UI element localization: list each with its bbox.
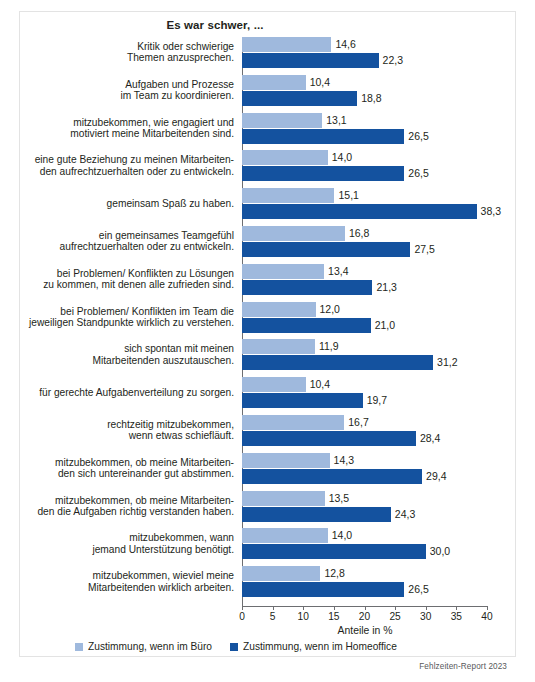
bar-value-label: 14,3 (334, 453, 354, 468)
bar-value-label: 12,0 (320, 302, 340, 317)
category-label: mitzubekommen, ob meine Mitarbeiten- den… (4, 457, 234, 480)
category-label: Aufgaben und Prozesse im Team zu koordin… (4, 79, 234, 102)
x-axis-label: Anteile in % (242, 625, 488, 636)
bar-group: 14,030,0 (242, 528, 487, 559)
bar-value-label: 16,7 (348, 415, 368, 430)
bar-homeoffice[interactable] (242, 355, 433, 370)
legend-swatch-icon-buero (75, 643, 83, 651)
bar-value-label: 14,6 (335, 37, 355, 52)
category-label: mitzubekommen, wann jemand Unterstützung… (4, 532, 234, 555)
bar-homeoffice[interactable] (242, 242, 410, 257)
bar-group: 10,419,7 (242, 377, 487, 408)
bar-buero[interactable] (242, 453, 330, 468)
category-label: mitzubekommen, wie engagiert und motivie… (4, 117, 234, 140)
bar-group: 14,026,5 (242, 150, 487, 181)
bar-buero[interactable] (242, 226, 345, 241)
category-label: mitzubekommen, wieviel meine Mitarbeiten… (4, 570, 234, 593)
bar-homeoffice[interactable] (242, 431, 416, 446)
bar-value-label: 11,9 (319, 339, 339, 354)
bar-homeoffice[interactable] (242, 204, 477, 219)
bar-group: 16,728,4 (242, 415, 487, 446)
bar-group: 14,622,3 (242, 37, 487, 68)
x-tick (242, 606, 243, 610)
bar-homeoffice[interactable] (242, 507, 391, 522)
bar-group: 16,827,5 (242, 226, 487, 257)
bar-value-label: 30,0 (430, 544, 450, 559)
x-tick-label: 5 (270, 611, 276, 622)
bar-group: 13,421,3 (242, 264, 487, 295)
bar-buero[interactable] (242, 150, 328, 165)
bar-value-label: 26,5 (408, 129, 428, 144)
bar-value-label: 14,0 (332, 150, 352, 165)
category-label: gemeinsam Spaß zu haben. (4, 198, 234, 210)
legend-item-homeoffice[interactable]: Zustimmung, wenn im Homeoffice (230, 641, 397, 652)
bar-buero[interactable] (242, 113, 322, 128)
bar-homeoffice[interactable] (242, 91, 357, 106)
bar-buero[interactable] (242, 37, 331, 52)
x-tick-label: 30 (420, 611, 431, 622)
bar-buero[interactable] (242, 491, 325, 506)
bar-buero[interactable] (242, 302, 316, 317)
legend-item-buero[interactable]: Zustimmung, wenn im Büro (75, 641, 212, 652)
x-tick-label: 25 (389, 611, 400, 622)
bar-group: 10,418,8 (242, 75, 487, 106)
bar-buero[interactable] (242, 75, 306, 90)
bar-buero[interactable] (242, 377, 306, 392)
x-tick-label: 15 (328, 611, 339, 622)
bar-homeoffice[interactable] (242, 129, 404, 144)
bar-buero[interactable] (242, 415, 344, 430)
x-tick-label: 0 (239, 611, 245, 622)
x-tick-label: 10 (298, 611, 309, 622)
category-label: rechtzeitig mitzubekommen, wenn etwas sc… (4, 419, 234, 442)
category-label: Kritik oder schwierige Themen anzusprech… (4, 41, 234, 64)
bar-homeoffice[interactable] (242, 166, 404, 181)
bar-buero[interactable] (242, 566, 320, 581)
bar-buero[interactable] (242, 264, 324, 279)
plot-area: 14,622,310,418,813,126,514,026,515,138,3… (242, 37, 487, 606)
legend-swatch-icon-homeoffice (230, 643, 238, 651)
x-tick (456, 606, 457, 610)
bar-value-label: 22,3 (383, 53, 403, 68)
bar-value-label: 38,3 (481, 204, 501, 219)
category-label: bei Problemen/ Konflikten zu Lösungen zu… (4, 268, 234, 291)
category-label: eine gute Beziehung zu meinen Mitarbeite… (4, 154, 234, 177)
bar-homeoffice[interactable] (242, 469, 422, 484)
bar-value-label: 26,5 (408, 166, 428, 181)
category-label: sich spontan mit meinen Mitarbeitenden a… (4, 343, 234, 366)
bar-homeoffice[interactable] (242, 582, 404, 597)
bar-value-label: 13,5 (329, 491, 349, 506)
x-tick (395, 606, 396, 610)
bar-homeoffice[interactable] (242, 318, 371, 333)
bar-group: 12,826,5 (242, 566, 487, 597)
bar-homeoffice[interactable] (242, 53, 379, 68)
x-tick (303, 606, 304, 610)
category-label: mitzubekommen, ob meine Mitarbeiten- den… (4, 495, 234, 518)
bar-value-label: 13,4 (328, 264, 348, 279)
bar-value-label: 13,1 (326, 113, 346, 128)
chart-title: Es war schwer, ... (0, 19, 430, 31)
bar-buero[interactable] (242, 188, 334, 203)
legend: Zustimmung, wenn im Büro Zustimmung, wen… (75, 641, 397, 652)
bar-value-label: 29,4 (426, 469, 446, 484)
x-tick-label: 20 (359, 611, 370, 622)
bar-homeoffice[interactable] (242, 544, 426, 559)
bar-value-label: 24,3 (395, 507, 415, 522)
bar-value-label: 26,5 (408, 582, 428, 597)
bar-buero[interactable] (242, 528, 328, 543)
x-tick (426, 606, 427, 610)
bar-value-label: 10,4 (310, 75, 330, 90)
figure: Es war schwer, ... 14,622,310,418,813,12… (0, 0, 535, 682)
x-tick (365, 606, 366, 610)
bar-group: 12,021,0 (242, 302, 487, 333)
bar-group: 15,138,3 (242, 188, 487, 219)
bar-value-label: 21,3 (376, 280, 396, 295)
bar-homeoffice[interactable] (242, 280, 372, 295)
category-label: bei Problemen/ Konflikten im Team die je… (4, 306, 234, 329)
bar-buero[interactable] (242, 339, 315, 354)
category-label: ein gemeinsames Teamgefühl aufrechtzuerh… (4, 230, 234, 253)
legend-label-homeoffice: Zustimmung, wenn im Homeoffice (243, 641, 397, 652)
bar-group: 13,524,3 (242, 491, 487, 522)
bar-homeoffice[interactable] (242, 393, 363, 408)
bar-value-label: 27,5 (414, 242, 434, 257)
bar-value-label: 31,2 (437, 355, 457, 370)
